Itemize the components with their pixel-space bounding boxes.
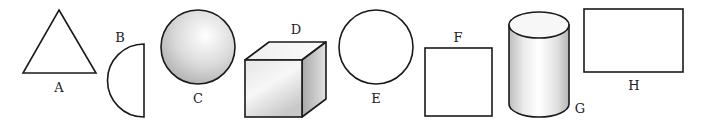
label-a: A xyxy=(53,80,64,95)
shape-c-sphere: C xyxy=(161,10,235,106)
shape-d-cube: D xyxy=(245,22,326,117)
shape-f-square: F xyxy=(425,30,492,116)
label-c: C xyxy=(193,91,203,106)
shape-e-circle: E xyxy=(339,10,413,106)
shape-h-rectangle: H xyxy=(584,9,683,93)
shape-b-semicircle: B xyxy=(108,30,145,117)
label-d: D xyxy=(291,22,301,37)
label-f: F xyxy=(453,30,462,45)
label-b: B xyxy=(115,30,125,45)
label-h: H xyxy=(628,78,639,93)
label-e: E xyxy=(371,91,381,106)
shapes-diagram: A B C D E F G H xyxy=(0,0,710,125)
label-g: G xyxy=(575,101,585,116)
shape-a-triangle: A xyxy=(23,10,96,95)
shape-g-cylinder: G xyxy=(509,12,585,117)
